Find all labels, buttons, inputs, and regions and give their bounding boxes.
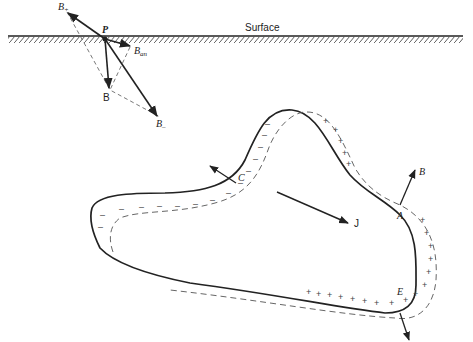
svg-text:+: + [426,267,431,277]
current-j-label: J [354,218,359,229]
svg-text:+: + [316,289,321,299]
svg-text:–: – [98,222,103,232]
svg-text:–: – [139,202,144,212]
svg-text:–: – [193,199,198,209]
svg-text:–: – [265,119,270,129]
svg-text:–: – [246,166,251,176]
svg-text:–: – [175,201,180,211]
positive-charges: +++ ++ +++ +++ +++ +++ +++ + [306,116,433,308]
surface: Surface [8,22,463,43]
svg-text:–: – [226,188,231,198]
field-b-label: B [419,166,425,177]
point-p-label: P [102,24,109,35]
svg-text:+: + [422,280,427,290]
svg-text:+: + [323,116,328,126]
b-label: B [103,92,110,103]
field-arrow-c [210,166,236,183]
field-arrow-e [400,313,409,340]
conductor: ––– ––– ––– ––– ––– +++ ++ +++ +++ +++ +… [91,110,436,340]
negative-layer-boundary [110,112,305,252]
svg-text:–: – [100,210,105,220]
b-plus-label: B+ [58,1,69,14]
svg-text:+: + [327,290,332,300]
svg-text:+: + [350,294,355,304]
b-plus-arrow [68,13,105,39]
svg-text:–: – [253,154,258,164]
parallelogram-dashed-2 [110,47,130,90]
b-minus-arrow [105,39,157,116]
svg-text:+: + [306,287,311,297]
surface-hatch [8,37,463,43]
svg-text:–: – [157,201,162,211]
svg-text:+: + [374,298,379,308]
svg-text:+: + [424,228,429,238]
svg-text:–: – [210,195,215,205]
current-arrow [277,192,348,223]
svg-text:+: + [389,298,394,308]
svg-text:+: + [403,295,408,305]
svg-text:–: – [258,142,263,152]
svg-text:+: + [338,136,343,146]
point-c-label: C [238,172,245,183]
svg-text:+: + [338,292,343,302]
svg-text:+: + [342,148,347,158]
svg-text:+: + [428,254,433,264]
svg-text:+: + [333,125,338,135]
surface-label: Surface [245,22,280,33]
svg-text:–: – [119,204,124,214]
svg-text:+: + [428,241,433,251]
point-a-label: A [396,210,404,221]
svg-text:+: + [420,215,425,225]
field-arrow-a [400,170,415,205]
svg-text:+: + [346,159,351,169]
b-arrow [105,39,109,88]
svg-text:+: + [362,296,367,306]
svg-text:+: + [413,289,418,299]
b-an-label: Ban [134,45,148,58]
b-minus-label: B– [156,118,166,131]
figure-canvas: Surface P B+ Ban B B– ––– ––– ––– ––– ––… [0,0,473,342]
field-vector-diagram: P B+ Ban B B– [58,1,166,131]
svg-text:–: – [262,130,267,140]
parallelogram-dashed [67,12,160,117]
point-e-label: E [396,286,403,297]
point-p-dot [103,37,108,42]
